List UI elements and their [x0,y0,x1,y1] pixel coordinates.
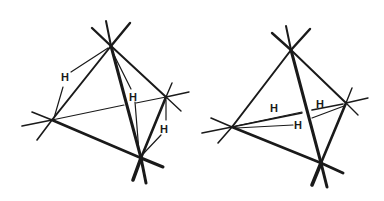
h-label: H [294,119,302,131]
left-tetrahedron [22,21,189,183]
h-label: H [316,98,324,110]
h-label: H [61,71,69,83]
spoke [141,158,146,183]
spoke [32,112,52,120]
spoke [141,158,163,167]
edge-top-left [232,50,291,127]
h-label: H [129,91,137,103]
spoke [346,98,368,103]
spoke [346,103,358,115]
spoke [346,88,352,103]
spoke [111,23,130,46]
h-bond-line [71,48,108,72]
spoke [211,118,232,127]
edge-right-bottom [321,103,346,163]
spoke [312,163,321,185]
spoke [166,83,172,97]
edge-left-bottom [52,120,141,158]
h-bond-line [236,125,293,128]
h-label: H [270,102,278,114]
diagram-canvas: H H H H H H [0,0,384,201]
spoke [133,158,141,180]
h-bond-line [236,112,302,126]
edge-top-left [52,46,111,120]
spoke [166,92,189,97]
spoke [166,97,181,111]
h-label: H [160,123,168,135]
spoke [291,29,310,50]
edge-left-right-2 [136,97,166,103]
edge-left-bottom [232,127,321,163]
right-tetrahedron [202,26,368,187]
